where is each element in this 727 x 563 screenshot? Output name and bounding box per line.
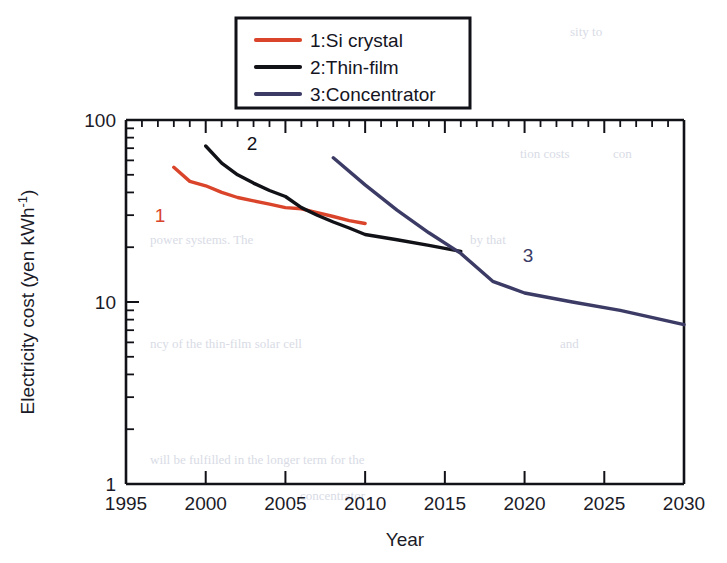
bleed-text-4: con (613, 146, 632, 161)
x-tick-label: 2020 (503, 493, 545, 514)
x-tick-label: 2015 (424, 493, 466, 514)
x-tick-label: 1995 (105, 493, 147, 514)
series-label-2: 2 (247, 133, 258, 154)
legend-label-1: 1:Si crystal (310, 30, 403, 51)
x-tick-label: 2030 (663, 493, 705, 514)
x-axis-label: Year (386, 529, 425, 550)
y-tick-label: 10 (95, 292, 116, 313)
series-label-1: 1 (155, 205, 166, 226)
chart-svg: n in using asity totion costsconpower sy… (0, 0, 727, 563)
chart-legend: 1:Si crystal2:Thin-film3:Concentrator (236, 18, 470, 108)
x-tick-label: 2010 (344, 493, 386, 514)
series-label-3: 3 (523, 245, 534, 266)
x-tick-label: 2025 (583, 493, 625, 514)
solar-electricity-cost-chart: n in using asity totion costsconpower sy… (0, 0, 727, 563)
legend-label-3: 3:Concentrator (310, 84, 436, 105)
bleed-text-5: power systems. The (150, 232, 254, 247)
bleed-text-6: by that (470, 232, 506, 247)
bleed-text-9: will be fulfilled in the longer term for… (150, 452, 365, 467)
bleed-text-8: and (560, 336, 579, 351)
bleed-text-2: sity to (570, 24, 602, 39)
y-tick-label: 100 (84, 110, 116, 131)
bleed-text-7: ncy of the thin-film solar cell (150, 336, 302, 351)
x-tick-label: 2000 (185, 493, 227, 514)
legend-label-2: 2:Thin-film (310, 57, 399, 78)
y-tick-label: 1 (105, 474, 116, 495)
x-tick-label: 2005 (264, 493, 306, 514)
y-axis-label: Electricity cost (yen kWh-1) (15, 190, 39, 415)
bleed-text-3: tion costs (520, 146, 569, 161)
